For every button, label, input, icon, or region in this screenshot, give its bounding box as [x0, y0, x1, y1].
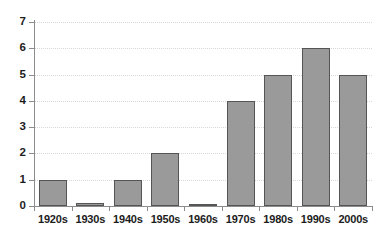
y-tick: [29, 48, 34, 49]
x-tick: [147, 206, 148, 211]
y-tick-label: 2: [4, 147, 26, 159]
y-tick-label: 1: [4, 174, 26, 186]
bar-2000s: [339, 75, 367, 206]
y-tick-label: 5: [4, 69, 26, 81]
y-tick: [29, 180, 34, 181]
y-tick-label: 6: [4, 42, 26, 54]
y-tick: [29, 22, 34, 23]
y-tick: [29, 153, 34, 154]
bar-chart: 01234567 1920s1930s1940s1950s1960s1970s1…: [0, 0, 378, 236]
y-tick-label: 4: [4, 95, 26, 107]
bar-1950s: [151, 153, 179, 206]
x-tick: [334, 206, 335, 211]
bar-1940s: [114, 180, 142, 206]
bar-1970s: [227, 101, 255, 206]
x-tick: [222, 206, 223, 211]
bar-1980s: [264, 75, 292, 206]
plot-area: [34, 22, 372, 206]
x-tick: [297, 206, 298, 211]
x-axis-line: [33, 206, 373, 207]
y-axis-line: [34, 20, 35, 208]
y-tick: [29, 101, 34, 102]
y-tick: [29, 127, 34, 128]
y-tick-label: 3: [4, 121, 26, 133]
gridline: [34, 22, 372, 23]
x-tick: [184, 206, 185, 211]
bar-1990s: [302, 48, 330, 206]
y-tick-label: 7: [4, 16, 26, 28]
bar-1920s: [39, 180, 67, 206]
y-tick-label: 0: [4, 200, 26, 212]
x-tick: [259, 206, 260, 211]
x-tick-label-2000s: 2000s: [331, 213, 375, 225]
x-tick: [34, 206, 35, 211]
x-tick: [372, 206, 373, 211]
x-tick: [109, 206, 110, 211]
x-tick: [72, 206, 73, 211]
y-tick: [29, 75, 34, 76]
